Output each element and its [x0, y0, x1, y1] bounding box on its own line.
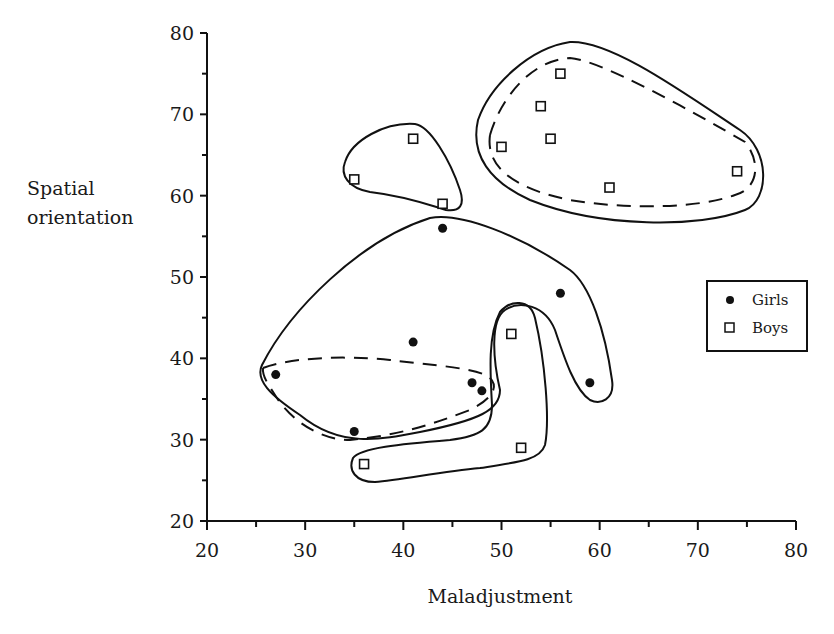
contour-boys-lower — [351, 303, 547, 482]
cluster-contours — [260, 42, 763, 482]
x-tick-label: 30 — [293, 539, 317, 561]
scatter-chart: 20304050607080 20304050607080 Maladjustm… — [0, 0, 834, 634]
legend-boys-marker-icon — [725, 323, 734, 332]
y-tick-label: 70 — [170, 103, 194, 125]
boys-point-icon — [350, 175, 359, 184]
x-tick-label: 20 — [195, 539, 219, 561]
girls-point-icon — [350, 427, 359, 436]
girls-point-icon — [477, 386, 486, 395]
boys-point-icon — [409, 134, 418, 143]
y-tick-label: 60 — [170, 185, 194, 207]
legend-boys-label: Boys — [752, 319, 788, 337]
y-axis: 20304050607080 — [170, 22, 207, 532]
girls-point-icon — [585, 378, 594, 387]
y-tick-label: 30 — [170, 429, 194, 451]
y-tick-label: 80 — [170, 22, 194, 44]
contour-boys-upper-right — [476, 42, 763, 223]
girls-point-icon — [556, 289, 565, 298]
legend: Girls Boys — [707, 281, 807, 351]
boys-point-icon — [605, 183, 614, 192]
x-tick-label: 80 — [784, 539, 808, 561]
contour-girls — [260, 217, 612, 439]
boys-point-icon — [517, 443, 526, 452]
boys-point-icon — [438, 199, 447, 208]
legend-girls-label: Girls — [752, 291, 788, 309]
y-tick-label: 50 — [170, 266, 194, 288]
boys-point-icon — [536, 102, 545, 111]
boys-point-icon — [546, 134, 555, 143]
girls-point-icon — [271, 370, 280, 379]
x-tick-label: 40 — [391, 539, 415, 561]
x-axis-label: Maladjustment — [428, 585, 573, 607]
girls-point-icon — [438, 224, 447, 233]
x-tick-label: 70 — [686, 539, 710, 561]
boys-point-icon — [556, 69, 565, 78]
x-tick-label: 60 — [588, 539, 612, 561]
y-tick-label: 40 — [170, 347, 194, 369]
legend-girls-marker-icon — [726, 296, 734, 304]
boys-point-icon — [497, 142, 506, 151]
contour-boys-upper-left — [344, 124, 462, 210]
boys-point-icon — [733, 167, 742, 176]
girls-point-icon — [409, 338, 418, 347]
x-tick-label: 50 — [489, 539, 513, 561]
y-tick-label: 20 — [170, 510, 194, 532]
boys-point-icon — [507, 329, 516, 338]
girls-point-icon — [468, 378, 477, 387]
y-axis-label-line1: Spatial — [27, 177, 95, 199]
x-axis: 20304050607080 — [195, 521, 808, 561]
contour-boys-upper-right-dashed — [490, 58, 756, 206]
boys-point-icon — [360, 460, 369, 469]
contour-girls-dashed — [263, 358, 494, 440]
y-axis-label-line2: orientation — [27, 206, 133, 228]
